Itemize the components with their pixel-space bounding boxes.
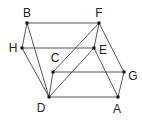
edge-AG bbox=[118, 72, 124, 97]
label-F: F bbox=[95, 6, 102, 20]
point-G bbox=[123, 71, 126, 74]
point-C bbox=[52, 71, 55, 74]
label-E: E bbox=[99, 43, 107, 57]
point-E bbox=[93, 47, 96, 50]
point-F bbox=[98, 22, 101, 25]
label-A: A bbox=[113, 102, 121, 116]
geometry-diagram: BFHECGDA bbox=[0, 0, 142, 123]
edges bbox=[22, 23, 124, 97]
edge-FC bbox=[53, 23, 99, 72]
label-D: D bbox=[37, 101, 46, 115]
edge-HD bbox=[22, 48, 49, 97]
label-C: C bbox=[51, 51, 60, 65]
point-A bbox=[117, 96, 120, 99]
point-H bbox=[21, 47, 24, 50]
point-B bbox=[26, 22, 29, 25]
label-H: H bbox=[9, 41, 18, 55]
point-D bbox=[48, 96, 51, 99]
edge-BH bbox=[22, 23, 27, 48]
label-B: B bbox=[23, 6, 31, 20]
points bbox=[21, 22, 126, 99]
label-G: G bbox=[128, 69, 137, 83]
edge-BD bbox=[27, 23, 49, 97]
